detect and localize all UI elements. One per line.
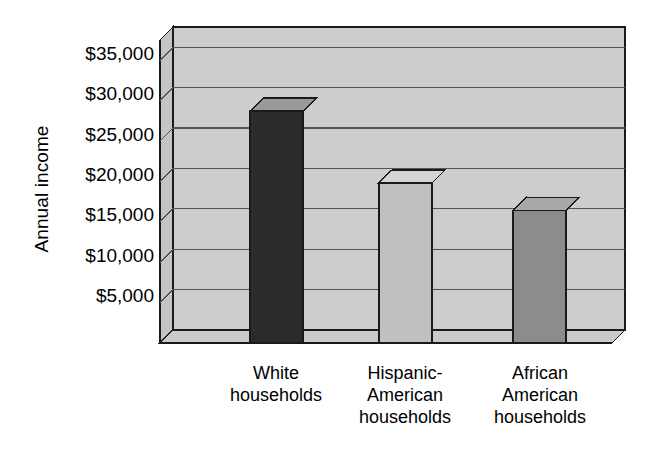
x-axis-category-labels: White householdsHispanic- American house… [0,0,650,457]
bar-chart: Annual income $5,000$10,000$15,000$20,00… [0,0,650,457]
x-axis-category-label: African American households [440,363,640,428]
